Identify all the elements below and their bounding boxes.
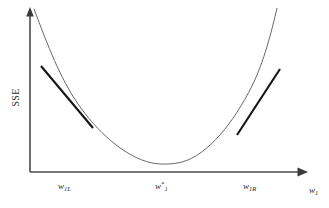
tangent-line-left bbox=[41, 66, 93, 128]
w1star-subscript: 1 bbox=[165, 185, 168, 192]
y-axis-arrowhead bbox=[26, 7, 34, 17]
y-axis-label: SSE bbox=[10, 76, 21, 120]
w1L-subscript: 1L bbox=[64, 185, 71, 192]
w1R-subscript: 1R bbox=[249, 185, 256, 192]
sse-curve-path bbox=[34, 8, 277, 164]
x-axis-label-subscript: 1 bbox=[315, 189, 318, 196]
x-tick-label-w1R: w1R bbox=[243, 182, 256, 191]
sse-curve-figure: SSE w1L w*1 w1R w1 bbox=[0, 0, 329, 208]
w1star-superscript: * bbox=[161, 180, 165, 188]
x-axis-arrowhead bbox=[298, 168, 309, 177]
x-tick-label-w1-optimal: w*1 bbox=[155, 182, 168, 191]
x-tick-label-w1L: w1L bbox=[58, 182, 71, 191]
plot-area bbox=[0, 0, 329, 208]
x-axis-label: w1 bbox=[309, 186, 318, 195]
